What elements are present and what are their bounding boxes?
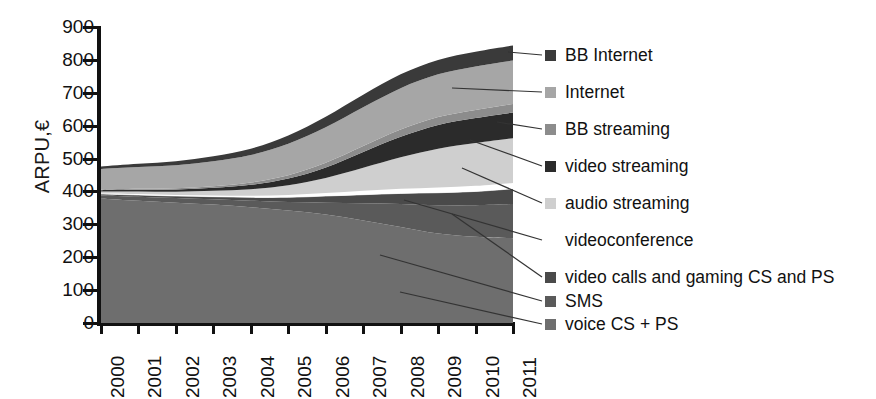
x-tick-mark	[362, 323, 365, 334]
legend-label: videoconference	[565, 231, 693, 249]
legend-swatch-icon	[545, 50, 556, 61]
legend-swatch-icon	[545, 235, 556, 246]
x-tick-mark	[437, 323, 440, 334]
legend-item[interactable]: BB streaming	[545, 120, 670, 138]
legend-swatch-icon	[545, 161, 556, 172]
x-tick-mark	[287, 323, 290, 334]
leader-line	[380, 255, 542, 301]
legend-item[interactable]: SMS	[545, 292, 603, 310]
y-tick-mark	[83, 158, 101, 161]
legend-item[interactable]: video calls and gaming CS and PS	[545, 268, 834, 286]
x-tick-mark	[400, 323, 403, 334]
x-tick-mark	[212, 323, 215, 334]
x-tick-mark	[100, 323, 103, 334]
legend-swatch-icon	[545, 296, 556, 307]
legend-swatch-icon	[545, 272, 556, 283]
y-tick-mark	[83, 256, 101, 259]
y-tick-mark	[83, 26, 101, 29]
y-tick-mark	[83, 223, 101, 226]
x-tick-mark	[137, 323, 140, 334]
x-tick-mark	[250, 323, 253, 334]
legend-item[interactable]: audio streaming	[545, 194, 690, 212]
leader-line	[462, 168, 542, 203]
legend-item[interactable]: voice CS + PS	[545, 315, 678, 333]
legend-label: video streaming	[565, 157, 689, 175]
x-tick-mark	[475, 323, 478, 334]
legend-swatch-icon	[545, 124, 556, 135]
y-tick-mark	[83, 125, 101, 128]
legend-label: voice CS + PS	[565, 315, 678, 333]
y-tick-mark	[83, 190, 101, 193]
legend-label: video calls and gaming CS and PS	[565, 268, 834, 286]
y-tick-mark	[83, 59, 101, 62]
leader-line	[508, 52, 542, 55]
leader-line	[404, 200, 542, 240]
leader-line	[452, 88, 542, 92]
chart-figure: ARPU,€ 9008007006005004003002001000 2000…	[0, 0, 876, 399]
legend-label: BB Internet	[565, 46, 653, 64]
legend-item[interactable]: BB Internet	[545, 46, 653, 64]
legend-swatch-icon	[545, 319, 556, 330]
x-tick-mark	[175, 323, 178, 334]
leader-line	[497, 122, 542, 129]
legend-label: Internet	[565, 83, 624, 101]
x-tick-mark	[325, 323, 328, 334]
legend-label: BB streaming	[565, 120, 670, 138]
leader-line	[452, 214, 542, 277]
legend-item[interactable]: video streaming	[545, 157, 689, 175]
legend-item[interactable]: Internet	[545, 83, 624, 101]
leader-line	[470, 140, 542, 166]
legend-swatch-icon	[545, 198, 556, 209]
leader-line	[400, 292, 542, 324]
y-tick-mark	[83, 322, 101, 325]
legend-leader-lines	[0, 0, 876, 399]
y-tick-mark	[83, 289, 101, 292]
legend-item[interactable]: videoconference	[545, 231, 693, 249]
x-tick-mark	[512, 323, 515, 334]
legend-label: SMS	[565, 292, 603, 310]
legend-swatch-icon	[545, 87, 556, 98]
legend-label: audio streaming	[565, 194, 690, 212]
y-tick-mark	[83, 92, 101, 95]
